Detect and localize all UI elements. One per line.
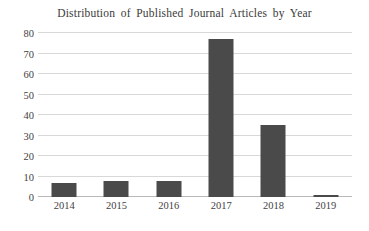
y-axis: 01020304050607080 bbox=[0, 33, 34, 197]
y-tick-label-20: 20 bbox=[24, 151, 35, 162]
x-tick-label-2017: 2017 bbox=[211, 200, 232, 211]
x-tick-label-2019: 2019 bbox=[315, 200, 336, 211]
bar-2018[interactable] bbox=[261, 125, 286, 197]
bar-slot-2015 bbox=[90, 33, 142, 197]
x-tick-label-2016: 2016 bbox=[158, 200, 179, 211]
x-tick-label-2014: 2014 bbox=[54, 200, 75, 211]
y-tick-label-10: 10 bbox=[24, 171, 35, 182]
x-tick-label-2015: 2015 bbox=[106, 200, 127, 211]
y-tick-label-60: 60 bbox=[24, 69, 35, 80]
bar-slot-2014 bbox=[38, 33, 90, 197]
y-tick-label-70: 70 bbox=[24, 48, 35, 59]
bar-2014[interactable] bbox=[52, 183, 77, 197]
y-tick-label-0: 0 bbox=[29, 192, 34, 203]
plot-area bbox=[38, 33, 352, 197]
x-tick-label-2018: 2018 bbox=[263, 200, 284, 211]
y-tick-label-50: 50 bbox=[24, 89, 35, 100]
y-tick-label-80: 80 bbox=[24, 28, 35, 39]
bar-2019[interactable] bbox=[313, 195, 338, 197]
bar-2015[interactable] bbox=[104, 181, 129, 197]
bar-chart-figure: Distribution of Published Journal Articl… bbox=[0, 0, 369, 231]
y-tick-label-30: 30 bbox=[24, 130, 35, 141]
chart-title: Distribution of Published Journal Articl… bbox=[0, 7, 369, 19]
bars-layer bbox=[38, 33, 352, 197]
x-axis: 201420152016201720182019 bbox=[38, 200, 352, 218]
bar-2017[interactable] bbox=[209, 39, 234, 197]
bar-slot-2017 bbox=[195, 33, 247, 197]
bar-slot-2018 bbox=[247, 33, 299, 197]
bar-slot-2016 bbox=[143, 33, 195, 197]
y-tick-label-40: 40 bbox=[24, 110, 35, 121]
bar-2016[interactable] bbox=[156, 181, 181, 197]
bar-slot-2019 bbox=[300, 33, 352, 197]
